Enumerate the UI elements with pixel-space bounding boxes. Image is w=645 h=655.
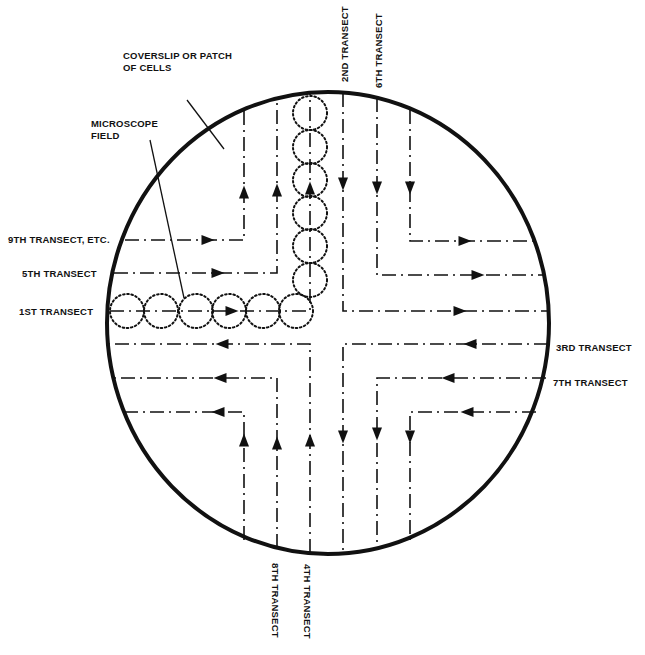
leader-lines	[150, 100, 224, 298]
arrow-right-icon	[212, 268, 225, 278]
path-8th-transect	[112, 373, 282, 548]
path-10th-transect	[405, 110, 536, 246]
label-8th-transect: 8TH TRANSECT	[270, 563, 281, 638]
label-2nd-transect: 2ND TRANSECT	[339, 6, 350, 82]
label-3rd-transect: 3RD TRANSECT	[556, 342, 632, 353]
label-1st-transect: 1ST TRANSECT	[19, 306, 93, 317]
microscope-fields	[110, 96, 327, 328]
arrow-right-icon	[454, 306, 467, 316]
dash-dot-line	[410, 110, 536, 241]
arrow-down-icon	[338, 431, 348, 444]
dash-dot-line	[410, 412, 536, 540]
arrow-up-icon	[239, 186, 249, 199]
label-5th-transect: 5TH TRANSECT	[22, 268, 97, 279]
label-7th-transect: 7TH TRANSECT	[553, 377, 628, 388]
arrow-left-icon	[464, 339, 477, 349]
diagram-canvas: COVERSLIP OR PATCH OF CELLS MICROSCOPE F…	[0, 0, 645, 655]
transect-diagram: COVERSLIP OR PATCH OF CELLS MICROSCOPE F…	[0, 0, 645, 655]
arrow-left-icon	[216, 339, 229, 349]
path-9th-transect	[125, 110, 249, 245]
path-7th-transect	[372, 373, 546, 548]
arrow-left-icon	[461, 407, 474, 417]
coverslip-label-line2: OF CELLS	[123, 62, 172, 73]
arrow-right-icon	[459, 236, 472, 246]
arrow-right-icon	[202, 235, 215, 245]
arrow-right-icon	[226, 306, 239, 316]
coverslip-label-line1: COVERSLIP OR PATCH	[123, 50, 232, 61]
dash-dot-line	[125, 110, 244, 240]
path-11th-transect	[405, 407, 536, 540]
arrow-up-icon	[272, 437, 282, 450]
dash-dot-line	[377, 98, 546, 275]
arrow-down-icon	[372, 182, 382, 195]
arrow-left-icon	[442, 373, 455, 383]
arrow-up-icon	[239, 434, 249, 447]
arrow-left-icon	[214, 373, 227, 383]
arrow-down-icon	[372, 428, 382, 441]
arrow-up-icon	[305, 434, 315, 447]
path-12th-transect	[125, 407, 249, 540]
label-4th-transect: 4TH TRANSECT	[302, 564, 313, 639]
dash-dot-line	[112, 378, 277, 548]
arrow-up-icon	[305, 182, 315, 195]
dash-dot-line	[125, 412, 244, 540]
arrow-down-icon	[405, 431, 415, 444]
microscope-field-label-line1: MICROSCOPE	[91, 118, 158, 129]
arrow-left-icon	[212, 407, 225, 417]
path-6th-transect	[372, 98, 546, 280]
arrow-down-icon	[338, 178, 348, 191]
arrow-down-icon	[405, 182, 415, 195]
dash-dot-line	[377, 378, 546, 548]
arrow-right-icon	[472, 270, 485, 280]
label-9th-transect: 9TH TRANSECT, ETC.	[8, 234, 110, 245]
label-6th-transect: 6TH TRANSECT	[373, 13, 384, 88]
arrow-up-icon	[272, 184, 282, 197]
microscope-field-label-line2: FIELD	[91, 130, 119, 141]
